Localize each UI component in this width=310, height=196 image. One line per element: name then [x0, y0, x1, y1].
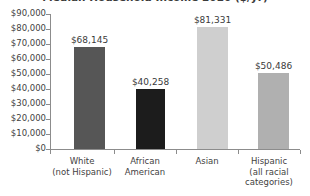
y-axis-tick: [46, 29, 50, 30]
category-label-line: categories): [229, 177, 309, 188]
y-axis-tick: [46, 74, 50, 75]
x-axis-tick: [300, 150, 301, 154]
y-axis-label: $60,000: [11, 54, 46, 63]
y-axis-label: $40,000: [11, 84, 46, 93]
y-axis-tick: [46, 89, 50, 90]
x-axis-tick: [114, 150, 115, 154]
chart-title: Median Household Income 2020 ($/yr): [0, 0, 310, 3]
bar-value-label: $81,331: [183, 15, 243, 25]
y-axis-label: $50,000: [11, 69, 46, 78]
bar: [136, 89, 165, 149]
x-axis-category-label: Hispanic(all racialcategories): [229, 156, 309, 188]
y-axis-tick: [46, 134, 50, 135]
x-axis-line: [50, 149, 300, 150]
y-axis-tick: [46, 59, 50, 60]
bar: [258, 73, 289, 149]
bar-value-label: $68,145: [60, 35, 120, 45]
category-label-line: American: [105, 167, 185, 178]
x-axis-tick: [50, 150, 51, 154]
bar-chart: Median Household Income 2020 ($/yr) $90,…: [0, 0, 310, 196]
y-axis-label: $0: [35, 144, 46, 153]
y-axis-tick: [46, 119, 50, 120]
y-axis-tick: [46, 104, 50, 105]
bar: [197, 27, 228, 149]
y-axis-label: $90,000: [11, 9, 46, 18]
category-label-line: Hispanic: [229, 156, 309, 167]
y-axis-label: $20,000: [11, 114, 46, 123]
category-label-line: (all racial: [229, 167, 309, 178]
y-axis-label: $80,000: [11, 24, 46, 33]
x-axis-tick: [238, 150, 239, 154]
y-axis-line: [50, 14, 51, 150]
x-axis-tick: [176, 150, 177, 154]
y-axis-label: $70,000: [11, 39, 46, 48]
y-axis-label: $30,000: [11, 99, 46, 108]
bar-value-label: $50,486: [244, 61, 304, 71]
y-axis-label: $10,000: [11, 129, 46, 138]
y-axis-tick: [46, 44, 50, 45]
y-axis-tick: [46, 14, 50, 15]
bar: [74, 47, 105, 149]
bar-value-label: $40,258: [121, 77, 181, 87]
